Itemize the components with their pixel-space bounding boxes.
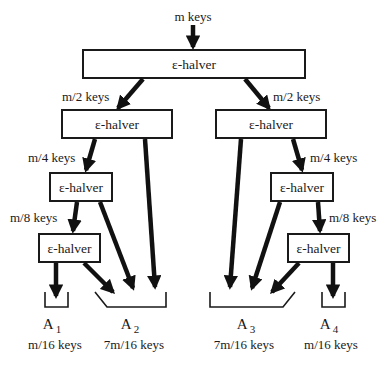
bucket-label-A1: A1 m/16 keys: [28, 316, 82, 352]
halver-label: ε-halver: [297, 241, 341, 256]
bucket-index: 4: [333, 323, 339, 335]
bucket-name: A: [237, 316, 248, 332]
bucket-size: 7m/16 keys: [104, 337, 164, 352]
edge-label-R3: m/8 keys: [329, 210, 376, 225]
bucket-size: m/16 keys: [28, 337, 82, 352]
edge-L2-to-L3: [73, 202, 77, 231]
input-label: m keys: [174, 9, 211, 24]
edge-label-R2: m/4 keys: [310, 150, 357, 165]
halver-node-R3: ε-halver: [288, 234, 349, 262]
edge-L3-to-A2: [84, 263, 113, 292]
halver-label: ε-halver: [59, 180, 103, 195]
bucket-name: A: [320, 316, 331, 332]
bucket-size: m/16 keys: [304, 337, 358, 352]
halver-network-diagram: m keys ε-halver m/2 keys m/2 keys ε-halv…: [0, 0, 390, 366]
edge-top-to-L1: [118, 79, 143, 108]
bucket-A2: [95, 292, 166, 307]
halver-label: ε-halver: [48, 241, 92, 256]
edge-L1-to-A2: [145, 139, 155, 287]
bucket-label-A3: A3 7m/16 keys: [214, 316, 274, 352]
edge-L2-to-A2: [100, 202, 133, 288]
edge-L1-to-L2: [86, 139, 95, 170]
halver-label: ε-halver: [95, 117, 139, 132]
halver-node-L1: ε-halver: [62, 110, 172, 138]
edge-R1-to-A3: [230, 139, 241, 287]
edge-top-to-R1: [245, 79, 269, 108]
edge-R2-to-R3: [318, 202, 320, 231]
bucket-A3: [210, 292, 295, 307]
halver-node-top: ε-halver: [83, 50, 305, 78]
halver-label: ε-halver: [280, 180, 324, 195]
svg-text:A1: A1: [43, 316, 61, 335]
edge-R1-to-R2: [293, 139, 302, 170]
bucket-index: 1: [56, 323, 62, 335]
bucket-label-A2: A2 7m/16 keys: [104, 316, 164, 352]
svg-text:A2: A2: [121, 316, 139, 335]
bucket-name: A: [43, 316, 54, 332]
edge-label-R1: m/2 keys: [273, 89, 320, 104]
bucket-name: A: [121, 316, 132, 332]
svg-text:A3: A3: [237, 316, 256, 335]
bucket-size: 7m/16 keys: [214, 337, 274, 352]
edge-R2-to-A3: [252, 202, 280, 288]
halver-node-L3: ε-halver: [39, 234, 100, 262]
edge-label-L2: m/4 keys: [28, 150, 75, 165]
halver-node-R2: ε-halver: [271, 173, 333, 201]
bucket-index: 3: [250, 323, 256, 335]
bucket-label-A4: A4 m/16 keys: [304, 316, 358, 352]
bucket-index: 2: [134, 323, 140, 335]
halver-node-R1: ε-halver: [216, 110, 326, 138]
svg-text:A4: A4: [320, 316, 339, 335]
halver-node-L2: ε-halver: [50, 173, 112, 201]
edge-label-L1: m/2 keys: [62, 89, 109, 104]
edge-R3-to-A3: [272, 263, 299, 292]
halver-label: ε-halver: [172, 57, 216, 72]
halver-label: ε-halver: [249, 117, 293, 132]
edge-label-L3: m/8 keys: [10, 210, 57, 225]
